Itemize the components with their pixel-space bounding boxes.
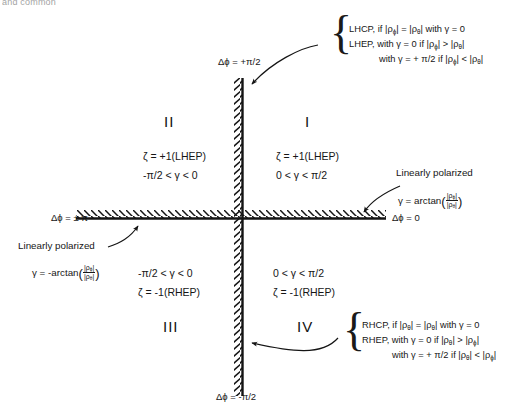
quadrant-numeral-IV: IV <box>297 318 313 335</box>
right-linear-numerator: |ρϕ| <box>446 192 458 201</box>
arrow-to-lower-axis <box>252 338 338 351</box>
horizontal-axis <box>76 210 386 219</box>
quadrant-I-zeta: ζ = +1(LHEP) <box>276 150 339 162</box>
top-note-l2-a: LHEP, with γ = 0 if |ρ <box>349 39 434 49</box>
left-linear-numerator: |ρϕ| <box>83 264 95 273</box>
bottom-note-l1-c: | with γ = 0 <box>435 320 480 330</box>
right-linear-num-b: | <box>455 192 457 199</box>
right-linear-fraction: |ρϕ||ρθ| <box>446 192 458 209</box>
bottom-note-l3-b: | < |ρ <box>470 350 491 360</box>
quadrant-IV-zeta: ζ = -1(RHEP) <box>273 286 335 298</box>
top-note-line-2: LHEP, with γ = 0 if |ρϕ| > |ρθ| <box>349 39 465 49</box>
bottom-note-l2-a: RHEP, with γ = 0 if |ρ <box>362 335 449 345</box>
left-linear-formula: γ = -arctan(|ρϕ||ρθ|) <box>32 264 100 282</box>
left-linear-paren-close: ) <box>95 266 99 281</box>
quadrant-II-zeta: ζ = +1(LHEP) <box>143 150 206 162</box>
bottom-note-l3-c: | <box>494 350 496 360</box>
top-note-line-3: with γ = + π/2 if |ρϕ| < |ρθ| <box>349 52 483 67</box>
bottom-note-line-3: with γ = + π/2 if |ρθ| < |ρϕ| <box>362 348 496 363</box>
axis-label-bottom: Δϕ = -π/2 <box>216 392 256 403</box>
left-linear-num-b: | <box>92 264 94 271</box>
top-note-l3-c: | <box>481 54 483 64</box>
arrow-to-right-axis <box>364 186 400 212</box>
right-linear-paren-close: ) <box>458 194 462 209</box>
quadrant-IV-gamma: 0 < γ < π/2 <box>273 267 324 279</box>
bottom-note-line-1: RHCP, if |ρθ| = |ρθ| with γ = 0 <box>362 320 480 330</box>
quadrant-numeral-II: II <box>164 113 174 130</box>
bottom-note-l2-c: | <box>477 335 479 345</box>
quadrant-III-zeta: ζ = -1(RHEP) <box>138 286 200 298</box>
top-note-l1-c: | with γ = 0 <box>420 24 465 34</box>
top-note-line-1: LHCP, if |ρϕ| = |ρθ| with γ = 0 <box>349 24 465 34</box>
bottom-note-l2-b: | > |ρ <box>452 335 473 345</box>
right-linear-den-b: | <box>455 201 457 208</box>
arrow-to-left-axis <box>108 226 138 247</box>
top-note-l1-b: | = |ρ <box>396 24 417 34</box>
top-note-l3-a: with γ = + π/2 if |ρ <box>379 54 453 64</box>
axis-label-top: Δϕ = +π/2 <box>218 57 261 68</box>
top-note-l2-c: | <box>462 39 464 49</box>
right-linear-denominator: |ρθ| <box>446 201 458 209</box>
quadrant-I-gamma: 0 < γ < π/2 <box>276 169 327 181</box>
bottom-note-line-2: RHEP, with γ = 0 if |ρθ| > |ρϕ| <box>362 335 479 345</box>
bottom-note-l3-a: with γ = + π/2 if |ρ <box>392 350 466 360</box>
quadrant-III-gamma: -π/2 < γ < 0 <box>138 267 193 279</box>
top-note-l3-b: | < |ρ <box>457 54 478 64</box>
bottom-note-l1-a: RHCP, if |ρ <box>362 320 407 330</box>
left-linear-fraction: |ρϕ||ρθ| <box>83 264 95 281</box>
bottom-note-l1-b: | = |ρ <box>411 320 432 330</box>
quadrant-numeral-III: III <box>163 318 179 335</box>
left-linear-title: Linearly polarized <box>18 240 95 251</box>
axis-label-right: Δϕ = 0 <box>392 213 420 224</box>
left-linear-formula-prefix: γ = -arctan <box>32 267 79 278</box>
bottom-note-block: RHCP, if |ρθ| = |ρθ| with γ = 0 RHEP, wi… <box>362 318 496 363</box>
top-note-l1-a: LHCP, if |ρ <box>349 24 393 34</box>
quadrant-II-gamma: -π/2 < γ < 0 <box>143 169 198 181</box>
figure-canvas: and common <box>0 0 516 412</box>
right-linear-title: Linearly polarized <box>396 167 473 178</box>
left-linear-den-b: | <box>92 273 94 280</box>
axis-label-left: Δϕ = ± π <box>51 213 88 224</box>
left-linear-denominator: |ρθ| <box>83 273 95 281</box>
arrow-to-upper-axis <box>252 45 318 84</box>
top-note-l2-b: | > |ρ <box>438 39 459 49</box>
right-linear-formula: γ = arctan(|ρϕ||ρθ|) <box>398 192 462 210</box>
quadrant-numeral-I: I <box>305 113 310 130</box>
vertical-axis <box>234 78 243 396</box>
right-linear-formula-prefix: γ = arctan <box>398 195 441 206</box>
top-note-block: LHCP, if |ρϕ| = |ρθ| with γ = 0 LHEP, wi… <box>349 22 483 67</box>
